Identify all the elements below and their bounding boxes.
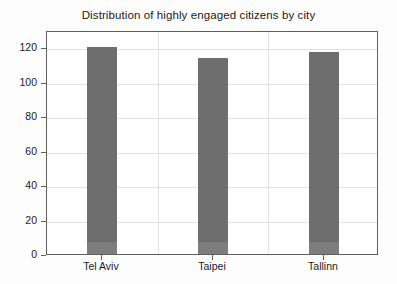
- bar[interactable]: [87, 47, 117, 254]
- bar-chart: Distribution of highly engaged citizens …: [0, 0, 397, 284]
- y-tick-label: 20: [0, 215, 37, 226]
- x-tick-label: Taipei: [162, 261, 262, 273]
- gridline-vertical: [158, 32, 159, 254]
- x-tick-label: Tallinn: [273, 261, 373, 273]
- bar[interactable]: [309, 52, 339, 254]
- y-tick-mark: [41, 255, 46, 256]
- bar[interactable]: [198, 58, 228, 254]
- y-tick-mark: [41, 83, 46, 84]
- bar-base-segment: [198, 242, 228, 254]
- y-tick-mark: [41, 152, 46, 153]
- y-tick-label: 80: [0, 111, 37, 122]
- y-tick-label: 60: [0, 146, 37, 157]
- gridline-vertical: [268, 32, 269, 254]
- bar-base-segment: [87, 242, 117, 254]
- x-tick-label: Tel Aviv: [51, 261, 151, 273]
- bar-base-segment: [309, 242, 339, 254]
- y-tick-label: 0: [0, 249, 37, 260]
- y-tick-mark: [41, 221, 46, 222]
- chart-title: Distribution of highly engaged citizens …: [0, 9, 397, 21]
- y-tick-mark: [41, 117, 46, 118]
- y-tick-label: 120: [0, 42, 37, 53]
- y-tick-mark: [41, 48, 46, 49]
- y-tick-label: 40: [0, 180, 37, 191]
- y-tick-mark: [41, 186, 46, 187]
- plot-area: [46, 31, 378, 255]
- plot-inner: [47, 32, 377, 254]
- y-tick-label: 100: [0, 77, 37, 88]
